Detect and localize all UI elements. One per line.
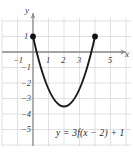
graph-figure: y x −1 1 2 3 5 1 −1 −2 −3 −4 −5 y = 3f(x… <box>0 0 133 152</box>
x-tick-label-1: 1 <box>46 56 50 65</box>
x-tick-label-3: 3 <box>77 56 81 65</box>
x-tick-label-2: 2 <box>61 56 65 65</box>
y-tick-label-neg3: −3 <box>21 94 31 103</box>
x-tick-label-5: 5 <box>108 56 112 65</box>
y-tick-label-1: 1 <box>24 32 28 41</box>
y-axis-label: y <box>25 6 29 15</box>
y-tick-label-neg2: −2 <box>21 79 31 88</box>
y-tick-label-neg1: −1 <box>21 63 31 72</box>
y-tick-label-neg5: −5 <box>21 125 31 134</box>
y-axis <box>31 13 36 146</box>
endpoint-dot-right <box>92 34 98 40</box>
endpoint-dot-left <box>30 34 36 40</box>
x-axis-label: x <box>125 50 129 59</box>
equation-annotation: y = 3f(x − 2) + 1 <box>56 128 125 138</box>
y-tick-label-neg4: −4 <box>21 110 31 119</box>
